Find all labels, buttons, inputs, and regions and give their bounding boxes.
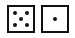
pip-icon — [19, 17, 23, 21]
pip-icon — [13, 11, 17, 15]
pip-icon — [53, 17, 57, 21]
pip-icon — [13, 23, 17, 27]
pip-icon — [25, 23, 29, 27]
pip-icon — [25, 11, 29, 15]
die-1[interactable] — [7, 5, 35, 33]
die-2[interactable] — [41, 5, 69, 33]
